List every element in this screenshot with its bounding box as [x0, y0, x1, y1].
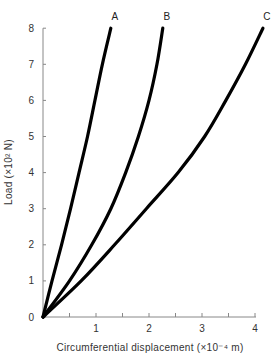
y-tick-label: 6 — [28, 95, 34, 106]
x-tick-label: 1 — [93, 323, 99, 334]
curve-a — [43, 28, 111, 317]
y-tick-label: 4 — [28, 167, 34, 178]
x-axis-title: Circumferential displacement (×10⁻⁴ m) — [56, 342, 243, 353]
y-tick-label: 5 — [28, 131, 34, 142]
y-axis: 012345678 — [28, 23, 46, 323]
x-tick-label: 4 — [252, 323, 258, 334]
load-displacement-chart: 012345678 1234 ABC Circumferential displ… — [0, 0, 274, 364]
x-tick-label: 3 — [199, 323, 205, 334]
y-tick-label: 1 — [28, 275, 34, 286]
curve-label-a: A — [112, 11, 119, 22]
y-tick-label: 8 — [28, 23, 34, 34]
y-tick-label: 0 — [28, 312, 34, 323]
y-tick-label: 7 — [28, 59, 34, 70]
y-tick-label: 3 — [28, 203, 34, 214]
curve-b — [43, 28, 163, 317]
x-tick-label: 2 — [146, 323, 152, 334]
curve-label-b: B — [163, 11, 170, 22]
x-axis: 1234 — [43, 313, 258, 334]
y-axis-title: Load (×10² N) — [3, 139, 14, 205]
curves: ABC — [43, 11, 271, 317]
y-tick-label: 2 — [28, 239, 34, 250]
curve-label-c: C — [263, 11, 270, 22]
